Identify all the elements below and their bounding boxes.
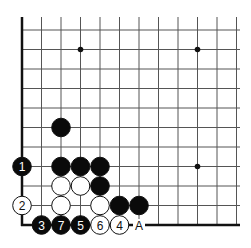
- black-stone: 3: [32, 216, 51, 235]
- black-stone-icon: [110, 196, 129, 215]
- black-stone: [71, 157, 90, 176]
- move-number: 5: [77, 219, 84, 233]
- black-stone-icon: [52, 157, 71, 176]
- white-stone-icon: [71, 177, 90, 196]
- white-stone-icon: [52, 196, 71, 215]
- move-number: 2: [19, 199, 26, 213]
- black-stone-icon: [52, 118, 71, 137]
- move-number: 4: [116, 219, 123, 233]
- black-stone-icon: [91, 177, 110, 196]
- white-stone: 6: [91, 216, 110, 235]
- black-stone: [91, 157, 110, 176]
- white-stone: 4: [110, 216, 129, 235]
- star-point-icon: [78, 47, 84, 53]
- star-point-icon: [195, 164, 201, 170]
- white-stone-icon: [91, 196, 110, 215]
- markers-layer: A: [133, 219, 145, 233]
- white-stone: [91, 196, 110, 215]
- black-stone: [52, 157, 71, 176]
- black-stone: [91, 177, 110, 196]
- black-stone: 1: [13, 157, 32, 176]
- black-stone: 5: [71, 216, 90, 235]
- move-number: 3: [38, 219, 45, 233]
- black-stone-icon: [91, 157, 110, 176]
- white-stone-icon: [52, 177, 71, 196]
- move-number: 6: [97, 219, 104, 233]
- white-stone: [52, 196, 71, 215]
- go-board: 1237564 A: [0, 0, 251, 248]
- move-number: 1: [19, 160, 26, 174]
- black-stone: [110, 196, 129, 215]
- point-marker-label: A: [135, 219, 143, 233]
- black-stone-icon: [71, 157, 90, 176]
- white-stone: [71, 177, 90, 196]
- black-stone: [52, 118, 71, 137]
- black-stone: 7: [52, 216, 71, 235]
- black-stone: [130, 196, 149, 215]
- white-stone: 2: [13, 196, 32, 215]
- star-point-icon: [195, 47, 201, 53]
- move-number: 7: [58, 219, 65, 233]
- white-stone: [52, 177, 71, 196]
- black-stone-icon: [130, 196, 149, 215]
